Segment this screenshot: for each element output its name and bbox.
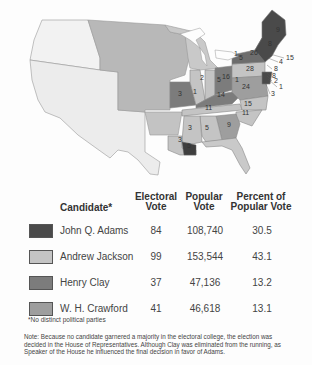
electoral-vote-label: 8 [268, 40, 272, 47]
electoral-vote-label: 1 [193, 88, 197, 95]
candidate-name: John Q. Adams [60, 224, 128, 238]
popular-vote: 153,544 [180, 250, 230, 264]
legend-swatch [29, 224, 53, 238]
percent-popular-vote: 43.1 [240, 250, 284, 264]
electoral-vote-label: 14 [217, 91, 225, 98]
electoral-vote-label: 28 [246, 65, 254, 72]
table-row: Andrew Jackson 99 153,544 43.1 [0, 250, 312, 270]
note-text: Note: Because no candidate garnered a ma… [24, 333, 294, 356]
popular-vote: 46,618 [180, 302, 230, 316]
florida-territory [202, 138, 250, 174]
electoral-vote-label: 3 [178, 136, 182, 143]
header-percent-line2: Popular Vote [226, 202, 296, 212]
electoral-vote-label: 1 [235, 76, 239, 83]
electoral-vote-label: 11 [205, 104, 212, 111]
electoral-vote-label: 24 [242, 83, 250, 90]
electoral-vote: 99 [138, 250, 174, 264]
electoral-vote-label: 15 [286, 54, 294, 61]
header-popular-line2: Vote [176, 202, 232, 212]
popular-vote: 47,136 [180, 276, 230, 290]
electoral-vote-label: 16 [222, 73, 230, 80]
electoral-vote-label: 4 [279, 58, 283, 65]
mid-atlantic [262, 72, 272, 84]
candidate-name: Henry Clay [60, 276, 109, 290]
electoral-vote-label: 2 [274, 77, 278, 84]
election-map: 98261515428882132516124311415111135935 [0, 0, 312, 180]
electoral-vote-label: 5 [239, 54, 243, 61]
electoral-vote-label: 9 [276, 26, 280, 33]
table-row: Henry Clay 37 47,136 13.2 [0, 276, 312, 296]
electoral-vote-label: 1 [234, 50, 238, 57]
percent-popular-vote: 13.1 [240, 302, 284, 316]
electoral-vote-label: 3 [271, 90, 275, 97]
electoral-vote-label: 11 [242, 109, 249, 116]
legend-swatch [29, 276, 53, 290]
candidate-name: Andrew Jackson [60, 250, 133, 264]
state-mississippi [182, 116, 202, 144]
electoral-vote: 37 [138, 276, 174, 290]
electoral-vote-label: 26 [250, 49, 258, 56]
electoral-vote: 41 [138, 302, 174, 316]
percent-popular-vote: 30.5 [240, 224, 284, 238]
legend-swatch [29, 302, 53, 316]
legend-swatch [29, 250, 53, 264]
electoral-vote: 84 [138, 224, 174, 238]
electoral-vote-label: 5 [205, 124, 209, 131]
arkansas-territory [145, 112, 182, 135]
header-popular: Popular Vote [176, 192, 232, 212]
electoral-vote-label: 8 [274, 65, 278, 72]
electoral-vote-label: 5 [217, 76, 221, 83]
footnote: *No distinct political parties [28, 316, 106, 323]
electoral-vote-label: 15 [244, 100, 252, 107]
percent-popular-vote: 13.2 [240, 276, 284, 290]
electoral-vote-label: 2 [200, 74, 204, 81]
electoral-vote-label: 5 [187, 142, 191, 149]
electoral-vote-label: 3 [178, 90, 182, 97]
candidate-name: W. H. Crawford [60, 302, 128, 316]
header-percent: Percent of Popular Vote [226, 192, 296, 212]
electoral-vote-label: 3 [188, 124, 192, 131]
table-row: John Q. Adams 84 108,740 30.5 [0, 224, 312, 244]
electoral-vote-label: 1 [279, 83, 283, 90]
electoral-vote-label: 9 [227, 121, 231, 128]
popular-vote: 108,740 [180, 224, 230, 238]
